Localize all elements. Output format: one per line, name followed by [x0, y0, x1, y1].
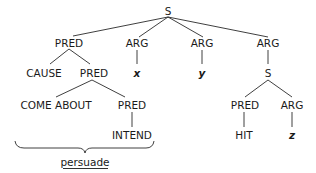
- node-arg-s: ARG: [257, 37, 280, 49]
- node-cause: CAUSE: [26, 67, 62, 79]
- node-arg-y: ARG: [191, 37, 214, 49]
- brace: [15, 141, 154, 153]
- brace-label-persuade: persuade: [60, 156, 109, 168]
- node-var-z: z: [288, 129, 296, 141]
- node-come-about: COME ABOUT: [20, 99, 92, 111]
- node-pred: PRED: [55, 37, 83, 49]
- node-intend: INTEND: [112, 129, 152, 141]
- node-hit: HIT: [235, 129, 253, 141]
- node-pred-inner: PRED: [80, 67, 108, 79]
- node-s-root: S: [165, 5, 172, 17]
- node-pred-intend: PRED: [118, 99, 146, 111]
- node-arg-z: ARG: [281, 99, 304, 111]
- node-arg-x: ARG: [126, 37, 149, 49]
- node-pred-hit: PRED: [231, 99, 259, 111]
- syntax-tree-diagram: S PRED ARG ARG ARG CAUSE PRED x y S COME…: [0, 0, 316, 173]
- node-var-x: x: [133, 67, 142, 79]
- node-var-y: y: [199, 67, 207, 79]
- node-s-sub: S: [265, 67, 272, 79]
